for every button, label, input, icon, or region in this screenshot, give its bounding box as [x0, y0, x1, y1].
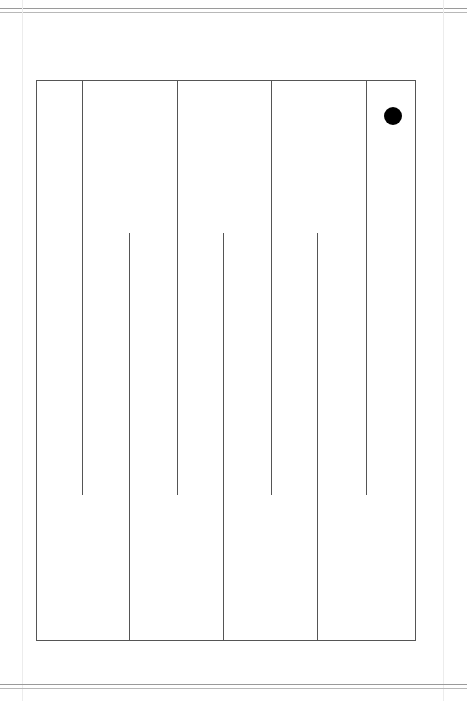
maze-diagram	[0, 0, 467, 701]
maze-outer-wall	[37, 81, 416, 641]
start-marker-dot	[384, 107, 402, 125]
page-bottom-border	[0, 684, 467, 689]
